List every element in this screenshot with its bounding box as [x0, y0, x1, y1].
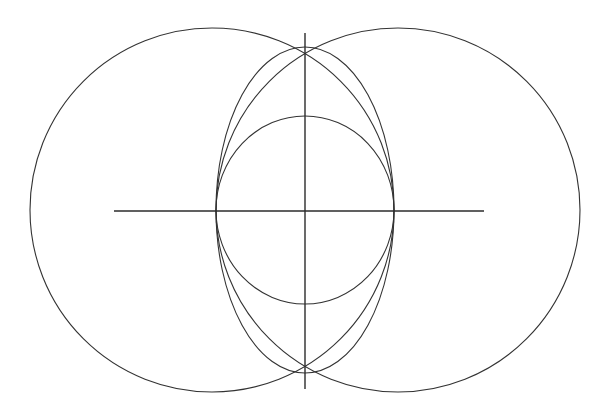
geometry-svg: [0, 0, 608, 420]
figure-canvas: [0, 0, 608, 420]
right-circle: [216, 28, 580, 392]
left-circle: [30, 28, 394, 392]
